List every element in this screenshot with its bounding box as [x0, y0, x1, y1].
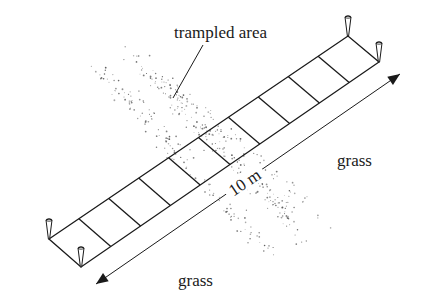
- grass-label-right: grass: [337, 151, 372, 170]
- grass-label-bottom: grass: [178, 271, 213, 290]
- cell-divider: [79, 219, 111, 247]
- cell-divider: [318, 56, 349, 82]
- arrowhead-end-icon: [387, 74, 400, 85]
- trampled-area-stipple: [91, 46, 332, 255]
- peg-left-icon: [46, 219, 52, 239]
- cell-divider: [139, 178, 171, 205]
- cell-divider: [228, 117, 259, 144]
- cell-divider: [109, 198, 141, 226]
- arrowhead-start-icon: [96, 273, 109, 284]
- corner-pegs: [46, 16, 382, 267]
- trampled-area-pointer: [173, 45, 203, 98]
- transect-strip: [49, 36, 379, 267]
- peg-bottom-icon: [78, 247, 84, 267]
- cell-divider: [258, 97, 289, 124]
- cell-divider: [199, 138, 231, 165]
- trampled-area-label: trampled area: [174, 23, 267, 42]
- transect-diagram: trampled area grass grass 10 m: [0, 0, 426, 302]
- cell-divider: [288, 77, 319, 103]
- peg-right-icon: [376, 42, 382, 62]
- peg-top-icon: [345, 16, 351, 36]
